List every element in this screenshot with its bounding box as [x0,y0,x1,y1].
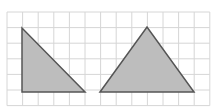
isosceles-triangle [100,27,194,92]
grid-diagram [0,0,216,112]
